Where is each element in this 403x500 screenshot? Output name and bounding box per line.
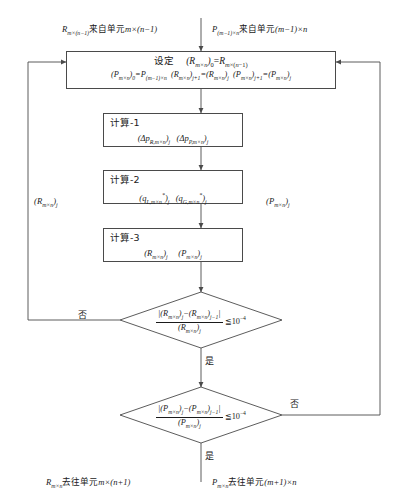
process-box-calc1-body: (ΔpR,m×n)j (ΔpP,m×n)j: [104, 133, 242, 148]
decision-r-yes-label: 是: [205, 356, 214, 366]
input-label-right: P(m−1)×n来自单元(m−1)×n: [212, 24, 307, 39]
decision-p-condition: |(Pm×n)j−(Pm×n)j−1| (Pm×n)j ≦10−4: [136, 404, 266, 430]
feedback-label-left: (Rm×n)j: [34, 196, 58, 210]
input-label-left: Rm×(n−1)来自单元m×(n−1): [62, 24, 157, 39]
process-box-calc1: 计算-1 (ΔpR,m×n)j (ΔpP,m×n)j: [103, 113, 243, 147]
setup-box-line2: (Pm×n)0=P(m−1)×n (Rm×n)j+1=(Rm×n)j (Pm×n…: [67, 69, 335, 84]
process-box-calc3: 计算-3 (Rm×n)j (Pm×n)j: [103, 228, 243, 262]
process-box-calc2-title: 计算-2: [110, 174, 139, 185]
setup-box: 设定 (Rm×n)0=Rm×(n−1) (Pm×n)0=P(m−1)×n (Rm…: [66, 51, 336, 89]
decision-r-no-label: 否: [78, 310, 87, 320]
process-box-calc2-body: (qL,m×n*)j (qG,m×n*)j: [104, 190, 242, 208]
process-box-calc3-body: (Rm×n)j (Pm×n)j: [104, 248, 242, 263]
process-box-calc1-title: 计算-1: [110, 117, 139, 128]
process-box-calc3-title: 计算-3: [110, 232, 139, 243]
process-box-calc2: 计算-2 (qL,m×n*)j (qG,m×n*)j: [103, 170, 243, 204]
feedback-label-right: (Pm×n)j: [266, 196, 290, 210]
output-label-right: Pm×n去往单元(m+1)×n: [212, 477, 296, 492]
decision-p-no-label: 否: [290, 399, 299, 409]
decision-p-yes-label: 是: [205, 451, 214, 461]
output-label-left: Rm×n去往单元m×(n+1): [46, 477, 130, 492]
flowchart-canvas: Rm×(n−1)来自单元m×(n−1) P(m−1)×n来自单元(m−1)×n …: [0, 0, 403, 500]
decision-r-condition: |(Rm×n)j−(Rm×n)j−1| (Rm×n)j ≦10−4: [136, 309, 266, 335]
wire-outer-feedback: [282, 62, 380, 415]
